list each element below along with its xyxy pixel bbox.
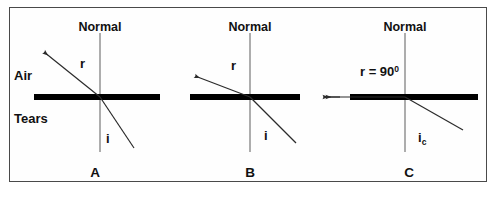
medium-label-tears: Tears (14, 111, 48, 126)
refracted-angle-label-c: r = 900 (360, 64, 399, 80)
panel-letter-c: C (404, 165, 414, 180)
medium-label-air: Air (14, 68, 32, 83)
incident-ray-b (250, 97, 296, 143)
refracted-angle-label-b: r (231, 58, 236, 73)
degree-superscript-c: 0 (394, 64, 399, 74)
panel-letter-b: B (245, 165, 255, 180)
refracted-ray-a (44, 52, 100, 97)
refracted-ray-b (195, 76, 250, 97)
refracted-angle-value-c: r = 90 (360, 64, 394, 79)
critical-subscript-c: c (422, 137, 427, 147)
normal-label-a: Normal (78, 20, 121, 34)
panel-c (326, 33, 478, 152)
normal-label-c: Normal (383, 20, 426, 34)
panel-letter-a: A (90, 165, 100, 180)
refracted-angle-label-a: r (80, 56, 85, 71)
refraction-diagram-canvas: Normal Normal Normal Air Tears r i r i r… (0, 0, 496, 199)
incident-angle-label-a: i (106, 131, 110, 146)
normal-label-b: Normal (228, 20, 271, 34)
incident-ray-c (405, 97, 463, 130)
refraction-figure: Normal Normal Normal Air Tears r i r i r… (0, 0, 496, 199)
panel-a (34, 33, 160, 152)
incident-angle-label-b: i (264, 128, 268, 143)
incident-angle-label-c: ic (418, 130, 427, 147)
